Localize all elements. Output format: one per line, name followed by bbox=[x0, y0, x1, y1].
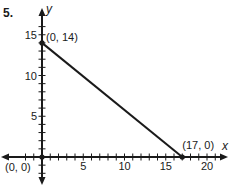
problem-number: 5. bbox=[3, 6, 13, 20]
x-tick-label: 15 bbox=[160, 160, 172, 172]
y-axis-down-arrow-icon bbox=[39, 177, 46, 185]
data-point bbox=[39, 40, 44, 45]
x-tick-label: 5 bbox=[80, 160, 86, 172]
point-label: (0, 0) bbox=[5, 161, 31, 173]
data-series bbox=[42, 43, 182, 157]
data-line bbox=[42, 43, 182, 157]
point-labels: (0, 14)(17, 0)(0, 0) bbox=[5, 31, 214, 173]
point-label: (17, 0) bbox=[182, 139, 214, 151]
y-axis-label: y bbox=[45, 2, 53, 16]
y-tick-label: 5 bbox=[31, 110, 37, 122]
line-chart: 5. xy 510152051015 (0, 14)(17, 0)(0, 0) bbox=[0, 0, 230, 186]
y-tick-label: 15 bbox=[25, 29, 37, 41]
ticks bbox=[26, 27, 216, 174]
y-tick-label: 10 bbox=[25, 70, 37, 82]
data-point bbox=[180, 154, 185, 159]
x-tick-label: 10 bbox=[118, 160, 130, 172]
data-point bbox=[39, 154, 44, 159]
x-axis-left-arrow-icon bbox=[1, 154, 9, 161]
y-axis-up-arrow-icon bbox=[39, 8, 46, 16]
x-tick-label: 20 bbox=[201, 160, 213, 172]
x-axis-label: x bbox=[221, 139, 229, 153]
x-axis-right-arrow-icon bbox=[220, 154, 228, 161]
point-label: (0, 14) bbox=[46, 31, 78, 43]
